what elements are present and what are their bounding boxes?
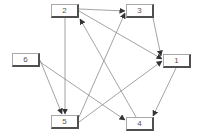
node-1[interactable]: 1 bbox=[163, 54, 191, 68]
edge-3-to-1 bbox=[153, 18, 161, 56]
edge-4-to-2 bbox=[80, 19, 136, 117]
edges-layer bbox=[40, 9, 176, 122]
graph-canvas bbox=[0, 0, 200, 137]
edge-6-to-5 bbox=[40, 60, 62, 114]
edge-2-to-1 bbox=[79, 11, 162, 59]
edge-5-to-1 bbox=[79, 61, 162, 122]
node-3[interactable]: 3 bbox=[126, 4, 154, 18]
node-5[interactable]: 5 bbox=[51, 115, 79, 129]
node-4[interactable]: 4 bbox=[126, 117, 154, 131]
node-6[interactable]: 6 bbox=[12, 53, 40, 67]
edge-1-to-4 bbox=[153, 68, 176, 116]
node-2[interactable]: 2 bbox=[51, 4, 79, 18]
edge-2-to-3 bbox=[79, 9, 125, 11]
